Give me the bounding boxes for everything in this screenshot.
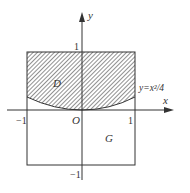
region-d-hatched	[27, 52, 135, 110]
origin-label: O	[72, 114, 80, 126]
region-d-label: D	[52, 77, 61, 89]
y-axis-arrow-icon	[79, 12, 85, 22]
tick-label-y-1: 1	[74, 41, 79, 52]
tick-label-y-neg-1: −1	[70, 169, 81, 180]
tick-label-x-1: 1	[128, 115, 133, 126]
diagram-canvas: y x O −1 1 1 −1 D G y=x²/4	[0, 0, 190, 193]
y-axis-label: y	[87, 9, 93, 21]
tick-label-x-neg-1: −1	[16, 115, 27, 126]
x-axis-arrow-icon	[164, 107, 174, 113]
x-axis-label: x	[162, 94, 168, 106]
region-g-label: G	[105, 132, 113, 144]
curve-label: y=x²/4	[138, 83, 164, 93]
